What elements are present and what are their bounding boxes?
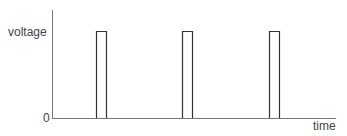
zero-label: 0 [43, 111, 50, 125]
pulse-3 [270, 32, 280, 119]
pulse-diagram [0, 0, 347, 136]
y-axis-label: voltage [8, 25, 47, 39]
x-axis-label: time [313, 119, 336, 133]
pulse-2 [183, 32, 193, 119]
pulse-1 [97, 32, 107, 119]
